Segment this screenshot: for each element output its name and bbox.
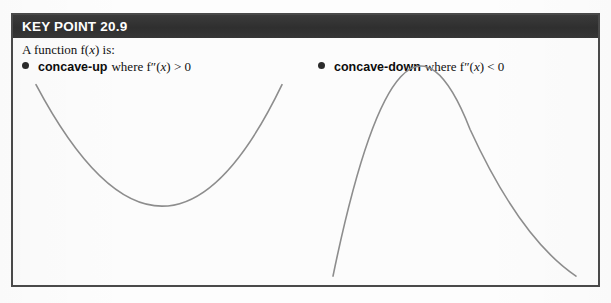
condition-prefix: where f″( xyxy=(425,59,474,74)
bullet-dot-icon xyxy=(318,62,325,69)
concave-up-curve xyxy=(36,85,282,207)
intro-text: A function f(x) is: xyxy=(22,42,115,58)
bullet-dot-icon xyxy=(22,62,29,69)
concave-down-term: concave-down xyxy=(334,60,421,74)
condition-suffix: ) < 0 xyxy=(480,59,505,74)
bullet-item-concave-down: concave-down where f″(x) < 0 xyxy=(318,59,504,75)
condition-prefix: where f″( xyxy=(111,59,160,74)
key-point-header-bar: KEY POINT 20.9 xyxy=(13,15,598,38)
concave-down-curve xyxy=(333,66,576,276)
intro-prefix: A function f( xyxy=(22,42,89,57)
concave-up-term: concave-up xyxy=(38,60,107,74)
bullet-item-concave-up: concave-up where f″(x) > 0 xyxy=(22,59,191,75)
key-point-callout-box: KEY POINT 20.9 A function f(x) is: conca… xyxy=(11,13,600,287)
figure-page: KEY POINT 20.9 A function f(x) is: conca… xyxy=(0,0,611,303)
key-point-body: A function f(x) is: concave-up where f″(… xyxy=(13,38,598,285)
concave-down-condition: where f″(x) < 0 xyxy=(425,59,505,75)
intro-suffix: ) is: xyxy=(95,42,115,57)
condition-suffix: ) > 0 xyxy=(166,59,191,74)
concavity-curves-diagram xyxy=(13,38,598,285)
concave-up-condition: where f″(x) > 0 xyxy=(111,59,191,75)
key-point-title: KEY POINT 20.9 xyxy=(13,19,127,34)
